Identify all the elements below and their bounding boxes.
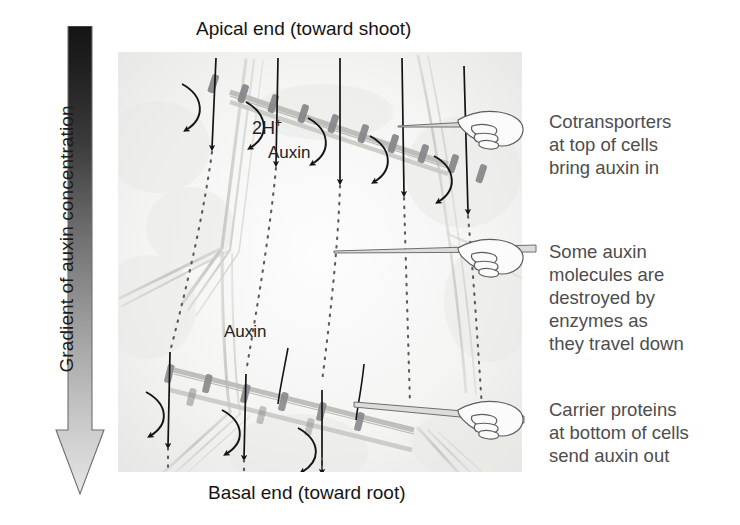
proton-label-text: 2H: [252, 118, 275, 138]
annotation-line: molecules are: [549, 263, 684, 286]
proton-label: 2H+: [252, 116, 282, 139]
annotation-line: they travel down: [549, 332, 684, 355]
pointing-hand-icon-0: [452, 100, 526, 152]
pointing-hand-icon-1: [452, 228, 526, 280]
auxin-transport-figure: Gradient of auxin concentration: [0, 0, 740, 525]
annotation-line: Some auxin: [549, 240, 684, 263]
pointing-hand-icon-2: [452, 388, 526, 444]
annotation-line: enzymes as: [549, 309, 684, 332]
annotation-line: destroyed by: [549, 286, 684, 309]
annotation-cotransporters: Cotransporters at top of cells bring aux…: [549, 110, 671, 179]
annotation-line: at bottom of cells: [549, 421, 689, 444]
gradient-axis: Gradient of auxin concentration: [0, 0, 118, 525]
gradient-axis-label: Gradient of auxin concentration: [56, 24, 78, 454]
annotation-carrier-proteins: Carrier proteins at bottom of cells send…: [549, 398, 689, 467]
auxin-label-apical: Auxin: [268, 143, 311, 163]
auxin-label-basal: Auxin: [224, 322, 267, 342]
annotation-line: bring auxin in: [549, 156, 671, 179]
annotation-line: send auxin out: [549, 444, 689, 467]
annotation-line: Carrier proteins: [549, 398, 689, 421]
apical-end-caption: Apical end (toward shoot): [196, 18, 411, 40]
basal-end-caption: Basal end (toward root): [208, 482, 406, 504]
annotation-line: Cotransporters: [549, 110, 671, 133]
annotation-line: at top of cells: [549, 133, 671, 156]
proton-charge: +: [275, 116, 282, 130]
annotation-enzymatic-destruction: Some auxin molecules are destroyed by en…: [549, 240, 684, 355]
